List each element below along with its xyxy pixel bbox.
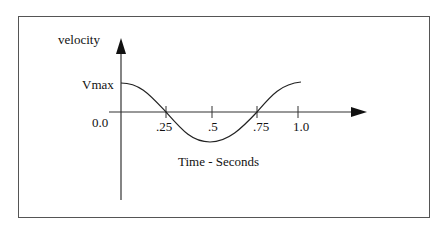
x-axis-label: Time - Seconds <box>178 155 259 168</box>
y-axis-arrow-icon <box>116 38 126 54</box>
x-tick-label-025: .25 <box>156 120 172 133</box>
x-axis-arrow-icon <box>351 107 367 117</box>
y-axis-label: velocity <box>58 33 100 46</box>
x-tick-label-10: 1.0 <box>293 120 309 133</box>
origin-label: 0.0 <box>92 116 108 129</box>
x-tick-label-05: .5 <box>208 120 218 133</box>
x-tick-label-075: .75 <box>253 120 269 133</box>
vmax-label: Vmax <box>82 78 114 91</box>
